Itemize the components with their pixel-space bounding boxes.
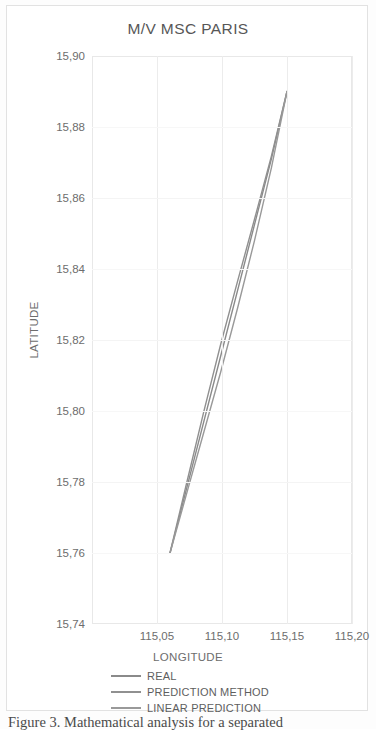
legend-item[interactable]: REAL: [7, 668, 369, 684]
x-tick-label: 115,05: [122, 630, 192, 642]
legend-swatch-icon: [111, 691, 141, 693]
figure-caption: Figure 3. Mathematical analysis for a se…: [8, 714, 370, 731]
plot-area: [92, 56, 352, 624]
legend-item-label: PREDICTION METHOD: [147, 686, 269, 698]
legend-swatch-icon: [111, 707, 141, 709]
y-tick-label: 15,82: [25, 334, 85, 346]
y-axis-tick-labels: 15,9015,8815,8615,8415,8215,8015,7815,76…: [19, 56, 85, 624]
x-axis-tick-labels: 115,05115,10115,15115,20: [92, 630, 352, 648]
y-gridline: [92, 269, 352, 270]
y-tick-label: 15,76: [25, 547, 85, 559]
y-tick-label: 15,86: [25, 192, 85, 204]
y-tick-label: 15,90: [25, 50, 85, 62]
x-tick-label: 115,20: [317, 630, 376, 642]
y-gridline: [92, 340, 352, 341]
legend-item[interactable]: PREDICTION METHOD: [7, 684, 369, 700]
legend-item-label: LINEAR PREDICTION: [147, 702, 261, 714]
chart-legend: REALPREDICTION METHODLINEAR PREDICTION: [7, 668, 369, 716]
y-gridline: [92, 127, 352, 128]
x-tick-label: 115,10: [187, 630, 257, 642]
x-gridline: [352, 56, 353, 624]
y-tick-label: 15,78: [25, 476, 85, 488]
chart-title: M/V MSC PARIS: [7, 20, 369, 38]
y-gridline: [92, 553, 352, 554]
legend-item-label: REAL: [147, 670, 177, 682]
y-tick-label: 15,84: [25, 263, 85, 275]
y-gridline: [92, 411, 352, 412]
y-gridline: [92, 198, 352, 199]
y-gridline: [92, 482, 352, 483]
x-axis-title: LONGITUDE: [7, 651, 369, 663]
y-tick-label: 15,88: [25, 121, 85, 133]
x-tick-label: 115,15: [252, 630, 322, 642]
y-tick-label: 15,80: [25, 405, 85, 417]
y-tick-label: 15,74: [25, 618, 85, 630]
legend-swatch-icon: [111, 675, 141, 677]
chart-container: M/V MSC PARIS LATITUDE 15,9015,8815,8615…: [6, 5, 368, 711]
